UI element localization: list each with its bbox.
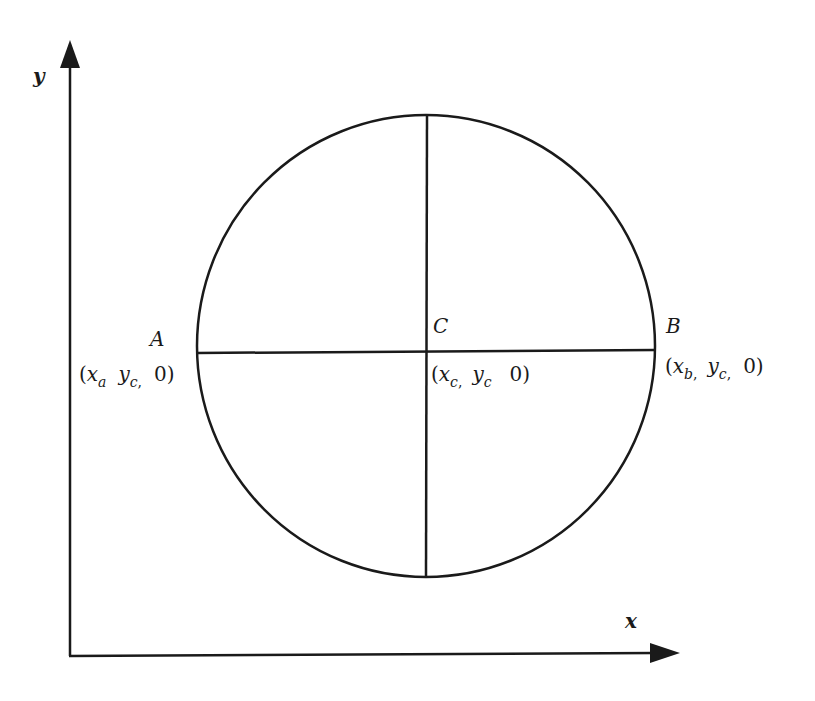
x-axis-label: x — [624, 609, 638, 633]
svg-text:(xc,yc0): (xc,yc0) — [431, 362, 530, 390]
diameter-vertical — [426, 115, 427, 577]
point-b-label: B — [665, 314, 681, 338]
x-axis — [69, 653, 655, 656]
x-axis-arrow-icon — [650, 643, 680, 663]
svg-text:(xb,yc,0): (xb,yc,0) — [665, 354, 764, 382]
y-axis-arrow-icon — [60, 40, 80, 68]
point-c-label: C — [433, 314, 448, 338]
point-a-label: A — [148, 327, 164, 351]
svg-text:(xayc,0): (xayc,0) — [79, 362, 175, 390]
point-b-coordinates: (xb,yc,0) — [665, 354, 764, 382]
diagram-canvas: y x A (xayc,0) C (xc,yc0) B (xb,yc,0) — [0, 0, 815, 701]
point-a-coordinates: (xayc,0) — [79, 362, 175, 390]
point-c-coordinates: (xc,yc0) — [431, 362, 530, 390]
y-axis-label: y — [32, 64, 46, 88]
